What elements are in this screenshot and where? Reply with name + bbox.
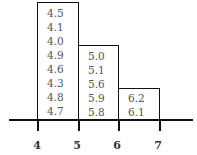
tick-label-6: 6	[109, 139, 125, 152]
bin-values: 5.0 5.1 5.6 5.9 5.8	[88, 49, 105, 119]
tick-6	[118, 121, 120, 131]
bin-values: 4.5 4.1 4.0 4.9 4.6 4.3 4.8 4.7	[47, 6, 64, 118]
tick-4	[37, 121, 39, 131]
value: 5.9	[88, 91, 105, 105]
value: 4.6	[47, 62, 64, 76]
value: 4.5	[47, 6, 64, 20]
tick-label-4: 4	[29, 139, 45, 152]
tick-label-5: 5	[69, 139, 85, 152]
value: 4.8	[47, 90, 64, 104]
value: 4.0	[47, 34, 64, 48]
value: 4.3	[47, 76, 64, 90]
bin-6-7: 6.2 6.1	[118, 88, 160, 120]
value: 4.9	[47, 48, 64, 62]
value: 4.7	[47, 104, 64, 118]
value: 5.6	[88, 77, 105, 91]
bin-values: 6.2 6.1	[128, 91, 145, 119]
bin-5-6: 5.0 5.1 5.6 5.9 5.8	[78, 45, 119, 120]
value: 6.1	[128, 105, 145, 119]
tick-5	[78, 121, 80, 131]
tick-label-7: 7	[150, 139, 166, 152]
value: 5.0	[88, 49, 105, 63]
value: 5.8	[88, 105, 105, 119]
value: 5.1	[88, 63, 105, 77]
bin-4-5: 4.5 4.1 4.0 4.9 4.6 4.3 4.8 4.7	[37, 2, 79, 120]
value: 6.2	[128, 91, 145, 105]
value: 4.1	[47, 20, 64, 34]
tick-7	[159, 121, 161, 131]
